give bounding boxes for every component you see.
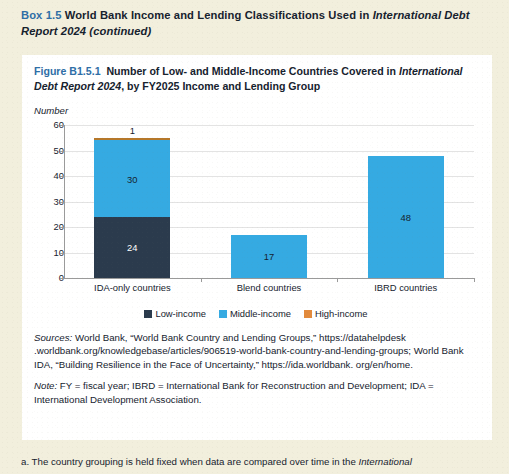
footnote-marker: a. (21, 456, 29, 467)
figure-number: Figure B1.5.1 (34, 65, 101, 77)
y-axis-ticks: 0102030405060 (34, 121, 64, 278)
y-axis-title: Number (34, 105, 68, 116)
footnote-text: The country grouping is held fixed when … (29, 456, 358, 467)
x-axis-label: Blend countries (201, 282, 338, 293)
legend-label: Middle-income (230, 308, 291, 319)
note-label: Note: (34, 380, 57, 391)
box-label: Box 1.5 (21, 9, 62, 21)
figure-title-tail: , by FY2025 Income and Lending Group (121, 80, 320, 92)
figure-title-text: Number of Low- and Middle-Income Countri… (106, 65, 399, 77)
x-axis-label: IBRD countries (337, 282, 474, 293)
x-axis-line (64, 278, 474, 279)
legend-label: High-income (315, 308, 368, 319)
x-tick-mark (201, 278, 202, 282)
legend-swatch-icon (144, 310, 152, 318)
bar-group[interactable]: 17 (231, 125, 307, 278)
chart-legend: Low-incomeMiddle-incomeHigh-income (34, 308, 478, 319)
bar-value-label: 17 (231, 251, 307, 262)
bar-segment[interactable] (94, 138, 170, 141)
x-axis-label: IDA-only countries (64, 282, 201, 293)
bar-chart-plot: 0102030405060 243011748 IDA-only countri… (34, 121, 478, 286)
legend-label: Low-income (155, 308, 206, 319)
bar-group[interactable]: 48 (368, 125, 444, 278)
bar-value-label: 24 (94, 242, 170, 253)
bar-value-label: 30 (94, 174, 170, 185)
legend-item[interactable]: High-income (304, 308, 368, 319)
sources-label: Sources: (34, 332, 72, 343)
x-tick-mark-end (474, 278, 475, 282)
sources-note: Sources: World Bank, “World Bank Country… (34, 331, 482, 371)
legend-item[interactable]: Low-income (144, 308, 206, 319)
bar-value-label: 1 (94, 125, 170, 136)
note-text: FY = fiscal year; IBRD = International B… (34, 380, 434, 404)
page-footnote: a. The country grouping is held fixed wh… (21, 455, 493, 468)
figure-panel: Figure B1.5.1 Number of Low- and Middle-… (22, 55, 492, 440)
legend-item[interactable]: Middle-income (219, 308, 291, 319)
box-header: Box 1.5 World Bank Income and Lending Cl… (21, 8, 489, 39)
box-title-text: World Bank Income and Lending Classifica… (65, 9, 373, 21)
bar-value-label: 48 (368, 212, 444, 223)
legend-swatch-icon (219, 310, 227, 318)
y-axis-line (64, 125, 65, 278)
box-title-continued: (continued) (86, 25, 151, 37)
figure-title: Figure B1.5.1 Number of Low- and Middle-… (34, 64, 478, 93)
legend-swatch-icon (304, 310, 312, 318)
bar-group[interactable]: 24301 (94, 125, 170, 278)
x-tick-mark (337, 278, 338, 282)
figure-notes: Sources: World Bank, “World Bank Country… (34, 331, 482, 406)
note-note: Note: FY = fiscal year; IBRD = Internati… (34, 379, 482, 406)
footnote-italic: International (358, 456, 411, 467)
sources-text: World Bank, “World Bank Country and Lend… (34, 332, 464, 370)
